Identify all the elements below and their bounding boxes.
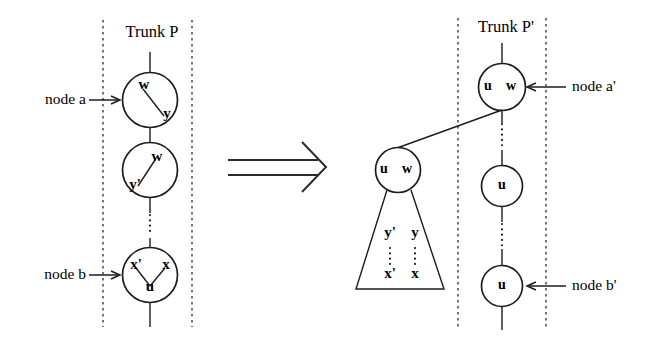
diagram-svg [0, 0, 649, 345]
subtree-label-x-prime: x' [381, 265, 399, 282]
transform-arrow-icon [228, 142, 326, 192]
node-b-prime-label: node b' [572, 276, 644, 294]
detached-subtree-link [386, 110, 502, 152]
left-node-1-symbol-w: w [135, 76, 153, 93]
detached-subtree-group [356, 110, 502, 289]
trunk-p-label: Trunk P [112, 22, 192, 42]
left-node-3-symbol-u: u [141, 278, 159, 295]
left-node-3-symbol-x: x [157, 256, 175, 273]
trunk-p-prime-label: Trunk P' [463, 17, 549, 37]
right-trunk-group [458, 18, 566, 330]
right-node-mid-symbol-u: u [495, 177, 509, 193]
right-node-a-prime-symbol-u: u [481, 78, 495, 94]
subtree-triangle [356, 190, 444, 289]
subtree-label-x: x [407, 265, 423, 282]
detached-node-symbol-w: w [399, 161, 415, 177]
node-a-prime-label: node a' [572, 77, 644, 95]
detached-node-symbol-u: u [377, 161, 391, 177]
subtree-label-y-prime: y' [381, 224, 399, 241]
left-node-3-symbol-x-prime: x' [126, 256, 146, 273]
left-node-2-symbol-y-prime: y' [125, 176, 145, 193]
right-node-b-prime-symbol-u: u [495, 277, 509, 293]
left-node-2-symbol-w: w [148, 148, 166, 165]
node-b-label: node b [10, 265, 86, 283]
diagram-canvas: Trunk P node a node b w y w y' x' x u Tr… [0, 0, 649, 345]
left-node-1-symbol-y: y [158, 105, 176, 122]
right-node-a-prime-symbol-w: w [503, 78, 519, 94]
subtree-label-y: y [407, 224, 423, 241]
node-a-label: node a [10, 90, 86, 108]
